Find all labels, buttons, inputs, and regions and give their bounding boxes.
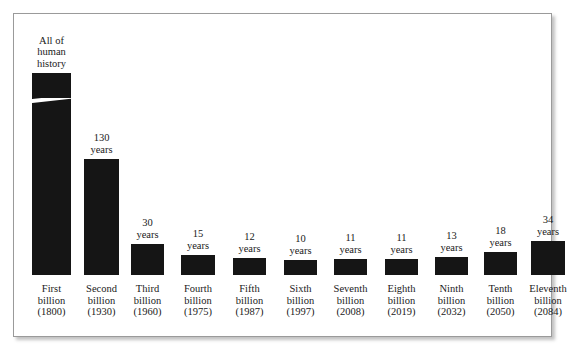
bar [484,252,517,275]
bar-value-line: years [238,243,260,255]
bar-category-label: Tenthbillion(2050) [487,283,515,318]
bar-column: 10years [284,260,317,275]
bar-column: 11years [334,259,367,275]
bar-category-line: billion [134,295,162,307]
bar [233,258,266,275]
axis-break-icon [30,98,73,107]
bar-value-line: 12 [238,231,260,243]
bar-column: 130years [84,159,119,275]
bar-column: 18years [484,252,517,275]
bar-value-label: 130years [90,132,112,155]
bar-category-label: Fifthbillion(1987) [236,283,264,318]
bar-category-line: (2032) [438,306,466,318]
bar-value-line: 15 [187,228,209,240]
bar-value-line: All of [37,35,66,47]
bar-category-line: Second [86,283,117,295]
bar-chart-plot: All ofhumanhistoryFirstbillion(1800)130y… [14,14,551,336]
bar-category-label: Ninthbillion(2032) [438,283,466,318]
bar-category-line: billion [388,295,416,307]
bar-category-line: (1987) [236,306,264,318]
bar-value-label: 13years [440,230,462,253]
bar-category-label: Seventhbillion(2008) [334,283,368,318]
bar-category-line: (1997) [287,306,315,318]
bar-value-line: human [37,46,66,58]
chart-figure: All ofhumanhistoryFirstbillion(1800)130y… [13,13,552,337]
bar-category-line: (2019) [388,306,416,318]
bar-category-line: (1960) [134,306,162,318]
bar-column: 34years [531,241,565,275]
bar [181,255,215,275]
bar [435,257,468,275]
bar-category-line: (2050) [487,306,515,318]
bar-category-label: Secondbillion(1930) [86,283,117,318]
bar-category-label: Eleventhbillion(2084) [529,283,566,318]
bar [531,241,565,275]
bar-category-line: billion [529,295,566,307]
bar-value-line: 18 [489,225,511,237]
bar-category-line: (1800) [38,306,66,318]
bar-value-line: 10 [289,233,311,245]
bar-value-line: 11 [390,232,412,244]
bar-value-line: 13 [440,230,462,242]
bar-value-line: years [390,244,412,256]
bar-value-line: 30 [136,217,158,229]
bar [84,159,119,275]
bar-column: All ofhumanhistory [32,73,71,275]
bar-value-line: years [440,242,462,254]
bar-category-line: billion [287,295,315,307]
bar-category-line: Sixth [287,283,315,295]
bar-category-line: (1975) [184,306,212,318]
bar-category-line: billion [236,295,264,307]
bar-value-line: years [489,237,511,249]
bar [284,260,317,275]
bar-category-line: Ninth [438,283,466,295]
bar-category-label: Fourthbillion(1975) [184,283,212,318]
bar-column: 12years [233,258,266,275]
bar-category-line: billion [184,295,212,307]
bar-value-label: All ofhumanhistory [37,35,66,70]
bar-category-line: Fourth [184,283,212,295]
bar [334,259,367,275]
bar-category-line: (2084) [529,306,566,318]
bar-value-line: years [289,245,311,257]
bar-value-line: history [37,58,66,70]
bar-column: 15years [181,255,215,275]
bar-column: 11years [385,259,418,275]
bar-column: 13years [435,257,468,275]
bar-category-line: billion [334,295,368,307]
bar-value-line: years [136,229,158,241]
bar-value-label: 12years [238,231,260,254]
bar-category-line: billion [86,295,117,307]
bar-value-label: 11years [390,232,412,255]
bar [131,244,164,275]
bar [385,259,418,275]
bar-value-label: 30years [136,217,158,240]
bar-value-label: 15years [187,228,209,251]
bar-category-line: Fifth [236,283,264,295]
bar-category-line: Tenth [487,283,515,295]
bar-category-line: (2008) [334,306,368,318]
bar-category-line: Eighth [388,283,416,295]
bar-category-line: Seventh [334,283,368,295]
bar-category-line: billion [38,295,66,307]
bar-value-label: 18years [489,225,511,248]
bar-category-line: billion [438,295,466,307]
bar-value-line: 130 [90,132,112,144]
bar-value-line: 34 [537,214,559,226]
bar-category-label: Eighthbillion(2019) [388,283,416,318]
bar-value-label: 10years [289,233,311,256]
bar-category-line: First [38,283,66,295]
bar-value-label: 11years [339,232,361,255]
bar-column: 30years [131,244,164,275]
bar-category-line: Third [134,283,162,295]
bar-category-line: billion [487,295,515,307]
bar-category-label: Thirdbillion(1960) [134,283,162,318]
bar-category-label: Firstbillion(1800) [38,283,66,318]
bar-value-line: 11 [339,232,361,244]
bar-value-label: 34years [537,214,559,237]
bar-category-line: Eleventh [529,283,566,295]
bar-value-line: years [90,144,112,156]
bar-value-line: years [187,240,209,252]
bar-category-label: Sixthbillion(1997) [287,283,315,318]
bar-value-line: years [537,226,559,238]
